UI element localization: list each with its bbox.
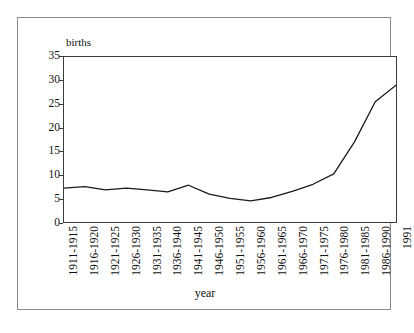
x-tick-label: 1916-1920 xyxy=(89,226,101,276)
x-tick-label: 1931-1935 xyxy=(152,226,164,276)
plot-area xyxy=(63,56,397,223)
x-tick-label: 1946-1950 xyxy=(214,226,226,276)
x-tick-label: 1966-1970 xyxy=(298,226,310,276)
x-tick-label: 1961-1965 xyxy=(277,226,289,276)
x-tick-label: 1991 xyxy=(402,226,414,249)
x-tick-label: 1956-1960 xyxy=(256,226,268,276)
data-line xyxy=(64,85,396,201)
x-tick-label: 1981-1985 xyxy=(360,226,372,276)
chart-figure: births 05101520253035 1911-19151916-1920… xyxy=(17,17,391,310)
x-tick-label: 1951-1955 xyxy=(235,226,247,276)
y-axis-tick-labels: 05101520253035 xyxy=(35,56,63,223)
x-tick-label: 1971-1975 xyxy=(319,226,331,276)
x-tick-label: 1921-1925 xyxy=(110,226,122,276)
x-tick-label: 1941-1945 xyxy=(193,226,205,276)
x-axis-title: year xyxy=(18,286,392,301)
y-axis-title: births xyxy=(66,37,91,48)
x-tick-label: 1911-1915 xyxy=(68,226,80,275)
line-series-svg xyxy=(64,57,396,222)
x-tick-label: 1936-1940 xyxy=(172,226,184,276)
x-tick-label: 1976-1980 xyxy=(339,226,351,276)
x-tick-label: 1926-1930 xyxy=(131,226,143,276)
x-tick-label: 1986-1990 xyxy=(381,226,393,276)
